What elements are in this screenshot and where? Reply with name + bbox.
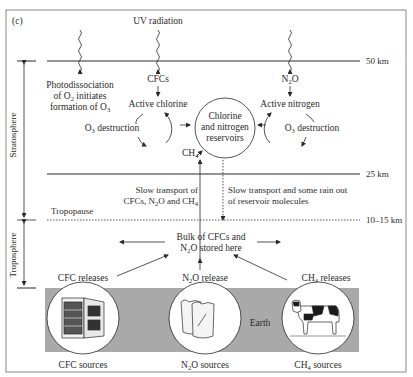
cfc-releases-label: CFC releases — [58, 273, 109, 283]
o3-destruction-left: O3 destruction — [85, 123, 140, 134]
svg-text:Photodissociation: Photodissociation — [46, 80, 114, 90]
cfc-sources-label: CFC sources — [59, 360, 108, 370]
stratosphere-label: Stratosphere — [8, 113, 18, 158]
active-nitrogen-label: Active nitrogen — [260, 99, 320, 109]
svg-text:of reservoir molecules: of reservoir molecules — [228, 196, 309, 206]
altitude-25km: 25 km — [366, 169, 389, 179]
ch4-sources-label: CH4 sources — [294, 360, 342, 371]
svg-text:Slow transport of: Slow transport of — [136, 185, 199, 195]
refrigerator-icon — [62, 298, 104, 338]
panel-label: (c) — [12, 16, 23, 27]
ch4-source-circle — [282, 282, 354, 354]
altitude-50km: 50 km — [366, 56, 389, 66]
tropopause-label: Tropopause — [51, 206, 93, 216]
o3-destruction-right: O3 destruction — [285, 123, 340, 134]
svg-text:Slow transport and some rain o: Slow transport and some rain out — [228, 185, 348, 195]
downward-transport-text: Slow transport and some rain out of rese… — [228, 185, 348, 206]
upward-transport-text: Slow transport of CFCs, N2O and CH4 — [123, 185, 198, 207]
svg-text:formation of O3: formation of O3 — [50, 102, 110, 113]
svg-text:and nitrogen: and nitrogen — [201, 122, 249, 132]
cfcs-label: CFCs — [147, 74, 169, 84]
ch4-label: CH4 — [182, 148, 199, 159]
n2o-source-circle — [169, 282, 241, 354]
svg-text:N2O stored here: N2O stored here — [180, 243, 241, 254]
uv-wave-icon — [79, 30, 292, 72]
svg-text:Chlorine: Chlorine — [208, 111, 241, 121]
altitude-10-15km: 10–15 km — [366, 215, 402, 225]
photodissociation-text: Photodissociation of O2 initiates format… — [46, 80, 114, 113]
svg-text:CFCs, N2O and CH4: CFCs, N2O and CH4 — [123, 196, 198, 207]
ch4-releases-label: CH4 releases — [302, 273, 351, 284]
fertilizer-bags-icon — [181, 300, 214, 338]
svg-text:of O2 initiates: of O2 initiates — [54, 91, 107, 102]
svg-text:Bulk of CFCs and: Bulk of CFCs and — [177, 232, 246, 242]
n2o-label: N2O — [282, 74, 299, 85]
uv-radiation-label: UV radiation — [133, 16, 183, 26]
bulk-storage-text: Bulk of CFCs and N2O stored here — [177, 232, 246, 254]
atmosphere-diagram: (c) UV radiation 50 km 25 km 10–15 km Tr… — [0, 0, 413, 377]
svg-text:reservoirs: reservoirs — [206, 133, 244, 143]
cfc-source-circle — [47, 282, 119, 354]
n2o-sources-label: N2O sources — [181, 360, 229, 371]
troposphere-label: Troposphere — [8, 232, 18, 277]
earth-label: Earth — [250, 318, 271, 328]
active-chlorine-label: Active chlorine — [129, 99, 188, 109]
